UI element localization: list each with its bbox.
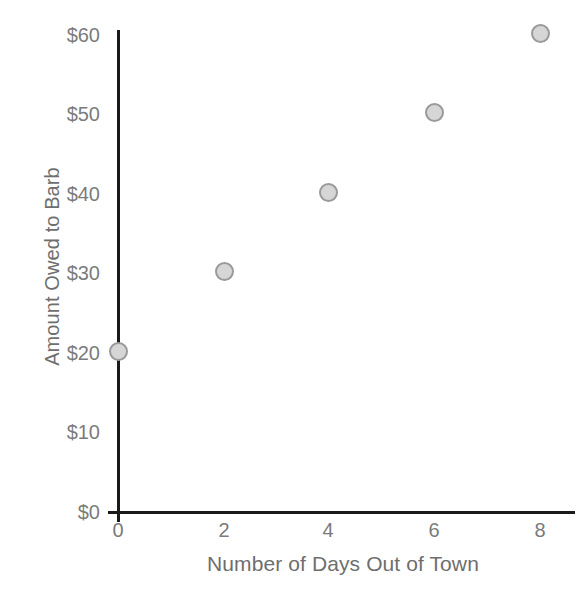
y-tick-label: $0: [42, 502, 100, 522]
x-tick-4: 4: [308, 519, 348, 541]
y-tick-label: $10: [42, 422, 100, 442]
plot-area: [118, 30, 576, 512]
y-tick-label: $30: [42, 263, 100, 283]
data-point: [109, 342, 128, 361]
y-tick-10: $10: [42, 422, 100, 442]
x-tick-label: 8: [534, 519, 545, 541]
data-point: [215, 262, 234, 281]
y-tick-60: $60: [42, 25, 100, 45]
x-tick-label: 2: [218, 519, 229, 541]
x-tick-label: 6: [428, 519, 439, 541]
data-point: [319, 183, 338, 202]
x-axis-title: Number of Days Out of Town: [108, 552, 578, 576]
data-point: [425, 103, 444, 122]
y-tick-30: $30: [42, 263, 100, 283]
x-tick-6: 6: [414, 519, 454, 541]
y-tick-label: $50: [42, 104, 100, 124]
y-tick-label: $40: [42, 184, 100, 204]
x-tick-label: 4: [322, 519, 333, 541]
x-tick-label: 0: [112, 519, 123, 541]
y-tick-50: $50: [42, 104, 100, 124]
x-tick-8: 8: [520, 519, 560, 541]
x-tick-0: 0: [98, 519, 138, 541]
y-tick-label: $60: [42, 25, 100, 45]
scatter-chart: Amount Owed to Barb $60 $50 $40 $30 $20 …: [0, 0, 586, 596]
data-point: [531, 24, 550, 43]
y-tick-label: $20: [42, 343, 100, 363]
y-tick-40: $40: [42, 184, 100, 204]
y-tick-0: $0: [42, 502, 100, 522]
x-tick-2: 2: [204, 519, 244, 541]
y-tick-20: $20: [42, 343, 100, 363]
